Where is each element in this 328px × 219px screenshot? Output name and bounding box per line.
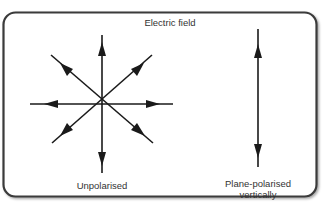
label-unpolarised: Unpolarised [62, 180, 142, 191]
label-plane-polarised: Plane-polarised [213, 178, 303, 189]
label-vertically: vertically [213, 189, 303, 200]
title-electric-field: Electric field [120, 17, 220, 28]
